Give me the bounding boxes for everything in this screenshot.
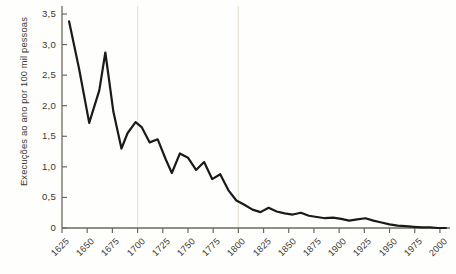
axes [62,6,450,228]
x-axis-tick-marks [62,228,440,233]
chart-figure: Execuções ao ano por 100 mil pessoas 00,… [0,0,456,274]
y-axis-tick-marks [62,14,67,228]
data-line-series [69,21,446,228]
gridlines [138,6,239,228]
chart-plot-area [0,0,456,274]
data-line [69,21,446,228]
